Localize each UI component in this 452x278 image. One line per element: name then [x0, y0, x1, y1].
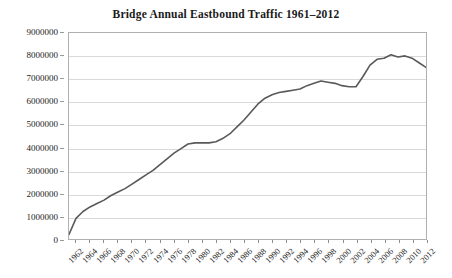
- y-tick-label: 8000000: [27, 50, 59, 60]
- y-tick-mark: [60, 32, 64, 33]
- series-polyline: [69, 55, 426, 235]
- y-tick-mark: [60, 78, 64, 79]
- y-tick-mark: [60, 171, 64, 172]
- y-tick-mark: [60, 101, 64, 102]
- chart-container: Bridge Annual Eastbound Traffic 1961–201…: [0, 0, 452, 278]
- y-tick-mark: [60, 148, 64, 149]
- y-axis: 0100000020000003000000400000050000006000…: [0, 32, 64, 240]
- y-tick-label: 3000000: [27, 166, 59, 176]
- y-tick-mark: [60, 217, 64, 218]
- y-tick-label: 2000000: [27, 189, 59, 199]
- line-series: [69, 33, 426, 239]
- y-tick-label: 5000000: [27, 119, 59, 129]
- y-tick-mark: [60, 124, 64, 125]
- plot-area: [68, 32, 427, 240]
- x-tick-label: 2012: [418, 246, 437, 265]
- y-tick-label: 6000000: [27, 96, 59, 106]
- chart-title: Bridge Annual Eastbound Traffic 1961–201…: [0, 8, 452, 20]
- x-axis: 1962196419661968197019721974197619781980…: [0, 240, 452, 278]
- y-tick-label: 1000000: [27, 212, 59, 222]
- y-tick-mark: [60, 194, 64, 195]
- y-tick-label: 4000000: [27, 143, 59, 153]
- y-tick-label: 9000000: [27, 27, 59, 37]
- y-tick-mark: [60, 55, 64, 56]
- y-tick-label: 7000000: [27, 73, 59, 83]
